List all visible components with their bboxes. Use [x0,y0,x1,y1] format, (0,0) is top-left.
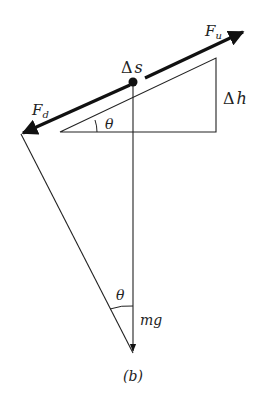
delta-h-label: Δh [223,89,247,108]
incline-angle-label: θ [105,116,114,132]
bottom-angle-arc [110,306,133,309]
inclined-plane-force-diagram: Fu Fd Δs Δh θ θ mg (b) [0,0,267,411]
incline-angle-arc [95,120,97,132]
figure-caption: (b) [123,368,143,384]
weight-label: mg [140,312,162,328]
bottom-angle-label: θ [116,287,125,303]
mass-point [129,78,138,87]
delta-s-label: Δs [121,58,143,77]
force-up-label: Fu [204,22,222,41]
force-down-label: Fd [31,101,49,120]
force-triangle-side [21,134,133,353]
force-up-vector [145,32,243,78]
